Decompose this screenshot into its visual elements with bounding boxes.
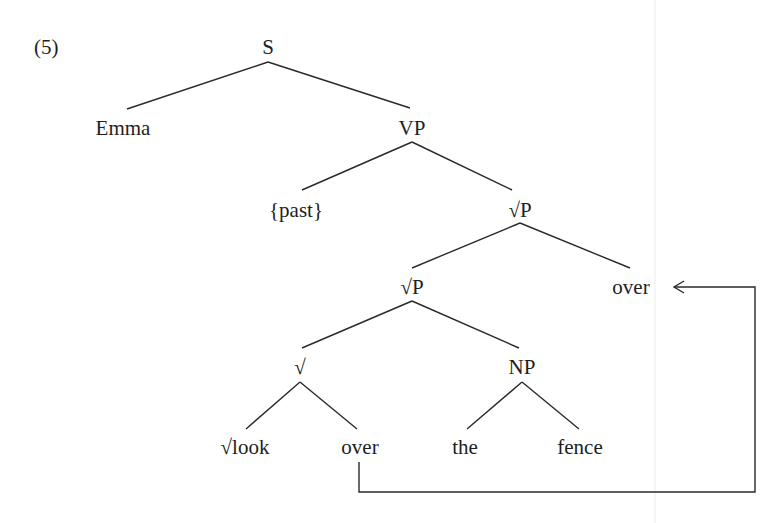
edge-VP-past <box>302 142 412 190</box>
node-Emma: Emma <box>96 116 151 140</box>
node-over-base: over <box>341 435 378 459</box>
node-fence: fence <box>557 435 602 459</box>
node-S: S <box>262 35 274 59</box>
node-past: {past} <box>269 198 323 222</box>
tree-nodes: S Emma VP {past} √P √P over √ NP √look o… <box>96 35 650 459</box>
edge-root-look <box>246 382 300 429</box>
tree-edges <box>127 62 630 429</box>
node-root: √ <box>294 355 306 379</box>
edge-NP-the <box>467 382 522 429</box>
node-rootP-upper: √P <box>508 198 531 222</box>
movement-arrow <box>359 281 755 492</box>
movement-path <box>359 287 755 492</box>
node-NP: NP <box>509 355 536 379</box>
syntax-tree-diagram: (5) S Emma VP {past} √P √P over √ NP √lo… <box>0 0 784 523</box>
node-rootP-lower: √P <box>400 275 423 299</box>
example-number: (5) <box>34 35 59 59</box>
edge-NP-fence <box>522 382 579 429</box>
edge-S-Emma <box>127 62 268 109</box>
node-look: √look <box>221 435 270 459</box>
edge-rootP-over <box>520 223 630 268</box>
node-over-moved: over <box>612 275 649 299</box>
edge-S-VP <box>268 62 410 108</box>
edge-rootP-rootP <box>412 223 520 268</box>
edge-root-over <box>300 382 357 429</box>
node-the: the <box>452 435 478 459</box>
edge-VP-rootP <box>412 142 512 190</box>
edge-rootP-NP <box>412 301 519 348</box>
node-VP: VP <box>399 116 426 140</box>
edge-rootP-root <box>302 301 412 348</box>
